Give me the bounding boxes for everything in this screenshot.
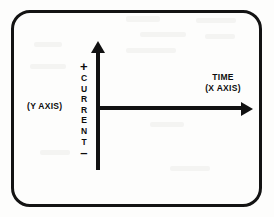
y-axis-caption: (Y AXIS) — [27, 102, 62, 111]
x-axis-label-block: TIME (X AXIS) — [188, 72, 258, 94]
y-axis-label-letter: R — [81, 95, 87, 104]
x-axis-caption: (X AXIS) — [188, 83, 258, 94]
x-axis-line — [98, 106, 243, 110]
y-axis-label-letter: C — [81, 74, 87, 83]
positive-sign-label: + — [77, 60, 91, 73]
y-axis-label-letter: E — [81, 116, 87, 125]
y-axis-label-letter: R — [81, 106, 87, 115]
negative-sign-label: – — [77, 146, 91, 159]
figure-root: + – C U R R E N T (Y AXIS) TIME (X AXIS) — [0, 0, 274, 217]
y-axis-label-letter: T — [81, 138, 86, 147]
y-axis-label-current: C U R R E N T — [77, 74, 91, 146]
y-axis-label-letter: N — [81, 127, 87, 136]
x-axis-label-time: TIME — [188, 72, 258, 83]
x-axis-arrow-icon — [241, 102, 253, 116]
y-axis-line — [96, 50, 100, 170]
y-axis-label-letter: U — [81, 85, 87, 94]
y-axis-arrow-icon — [91, 41, 105, 53]
